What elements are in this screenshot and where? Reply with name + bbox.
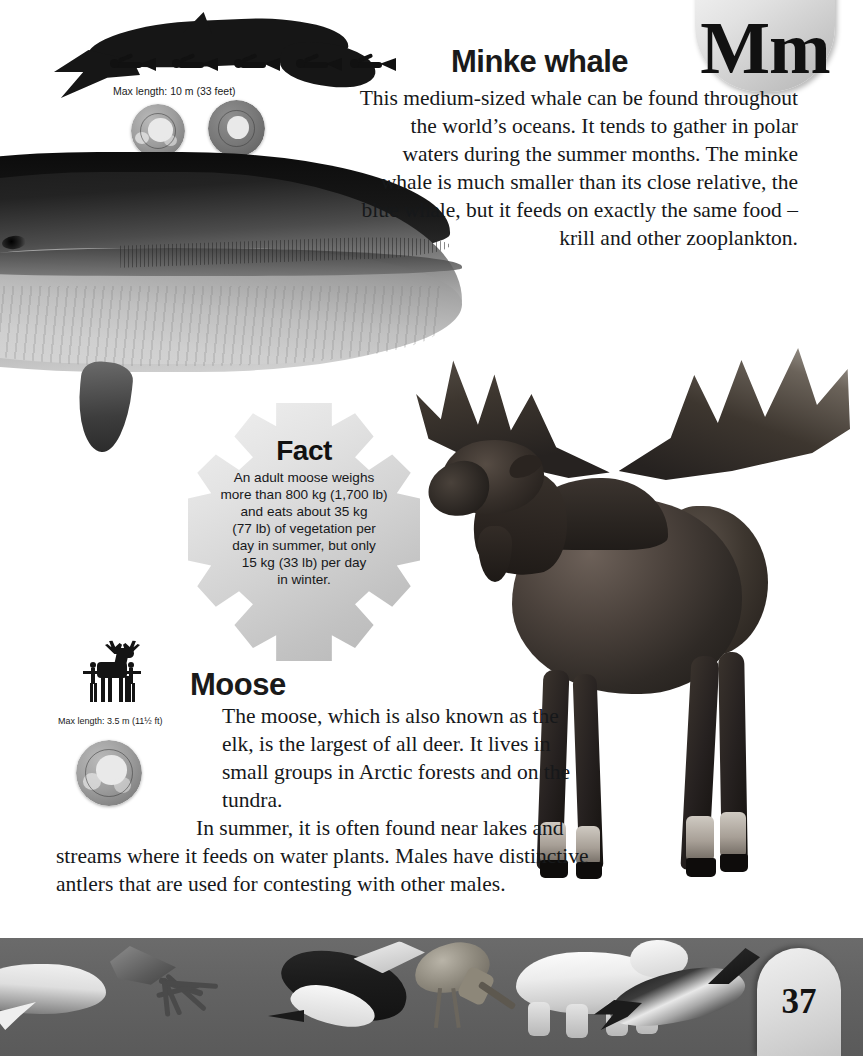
diver-icon	[350, 54, 396, 76]
diver-icon	[110, 54, 156, 76]
fact-line: (77 lb) of vegetation per	[232, 521, 376, 536]
moose-text-line: streams where it feeds on water plants. …	[56, 842, 600, 870]
diver-icon	[172, 54, 218, 76]
fact-box-content: Fact An adult moose weighs more than 800…	[206, 437, 402, 617]
whale-scale-caption: Max length: 10 m (33 feet)	[113, 85, 236, 97]
page-number: 37	[782, 982, 817, 1022]
fact-line: and eats about 35 kg	[241, 504, 368, 519]
fact-box: Fact An adult moose weighs more than 800…	[188, 403, 420, 661]
letter-index-tab[interactable]: Mm	[695, 0, 835, 92]
moose-dewlap	[478, 526, 512, 582]
human-scale-figure	[83, 662, 103, 702]
moose-text-line: small groups in Arctic forests and on th…	[56, 758, 600, 814]
moose-text-line: elk, is the largest of all deer. It live…	[56, 730, 600, 758]
fact-line: more than 800 kg (1,700 lb)	[220, 487, 387, 502]
dolphin-figure[interactable]	[604, 950, 768, 1042]
minke-whale-body-text: This medium-sized whale can be found thr…	[352, 84, 798, 252]
squid-figure[interactable]	[108, 944, 248, 1038]
bottom-navigation-band: 37	[0, 938, 863, 1056]
letter-tab-label: Mm	[700, 14, 830, 92]
minke-whale-scale-silhouette	[52, 14, 362, 94]
moose-text-line: In summer, it is often found near lakes …	[56, 814, 600, 842]
fact-line: in winter.	[277, 572, 331, 587]
page-number-tab[interactable]: 37	[757, 948, 841, 1056]
encyclopedia-page: Mm Max length: 10 m (33 feet)	[0, 0, 863, 1056]
beluga-whale-figure[interactable]	[0, 958, 124, 1030]
fact-line: An adult moose weighs	[234, 470, 375, 485]
moose-scale-silhouette	[75, 640, 151, 708]
moose-text-line: The moose, which is also known as the	[56, 702, 600, 730]
page-title-minke-whale: Minke whale	[451, 44, 628, 80]
fact-line: day in summer, but only	[232, 538, 376, 553]
fact-box-title: Fact	[206, 437, 402, 466]
page-title-moose: Moose	[190, 667, 286, 703]
moose-body-text: The moose, which is also known as the el…	[56, 702, 600, 898]
diver-icon	[296, 54, 342, 76]
diver-icon	[234, 54, 280, 76]
moose-text-line: antlers that are used for contesting wit…	[56, 870, 600, 898]
moose-antler-right	[614, 330, 850, 480]
fact-box-text: An adult moose weighs more than 800 kg (…	[206, 469, 402, 589]
whale-throat-pleats	[0, 286, 440, 366]
diver-scale-figures	[110, 54, 360, 80]
fact-line: 15 kg (33 lb) per day	[242, 555, 367, 570]
whale-pectoral-fin	[73, 360, 134, 455]
human-scale-figure	[121, 662, 141, 702]
